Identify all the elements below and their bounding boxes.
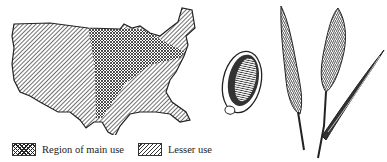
seed-head-2-illustration [318, 8, 384, 158]
crosshatch-swatch-icon [12, 143, 36, 156]
map-svg [0, 0, 200, 135]
map-legend: Region of main use Lesser use [12, 143, 212, 156]
us-usage-map [0, 0, 200, 135]
plants-svg [200, 0, 387, 162]
legend-label-main: Region of main use [42, 144, 124, 155]
seed-head-1-illustration [281, 6, 304, 150]
legend-item-main: Region of main use [12, 143, 124, 156]
seed-illustration [216, 48, 267, 119]
plant-illustrations [200, 0, 387, 162]
hatch-swatch-icon [138, 143, 162, 156]
